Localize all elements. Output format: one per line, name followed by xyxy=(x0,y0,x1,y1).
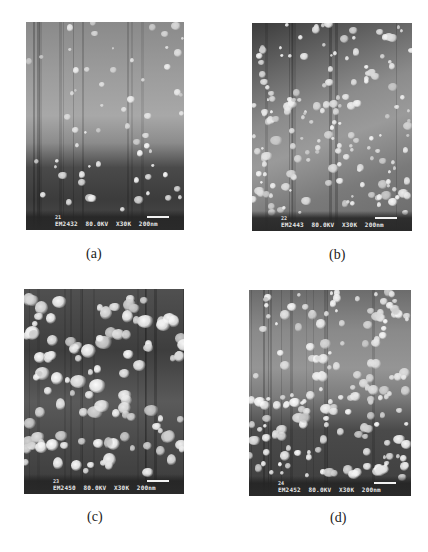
particle xyxy=(53,457,63,470)
particle xyxy=(260,181,263,184)
particle xyxy=(99,82,106,88)
sem-parameters: EM2432 80.0KV X30K 200nm xyxy=(55,221,158,227)
particle xyxy=(295,323,302,332)
particle xyxy=(34,313,44,321)
magnification: X30K xyxy=(108,220,131,227)
sem-parameters: EM2450 80.0KV X30K 200nm xyxy=(53,485,156,491)
particle xyxy=(249,421,255,429)
particle xyxy=(252,134,256,139)
particle xyxy=(301,197,312,206)
particle xyxy=(404,422,409,426)
particle xyxy=(336,178,344,184)
particle xyxy=(286,170,296,178)
particle xyxy=(67,24,73,31)
particle xyxy=(388,170,391,174)
particle xyxy=(144,405,159,416)
particle xyxy=(90,22,96,26)
scan-stripe xyxy=(265,23,268,231)
accelerating-voltage: 80.0KV xyxy=(301,486,332,493)
particle xyxy=(338,395,345,400)
particle xyxy=(123,350,134,360)
particle xyxy=(324,23,334,28)
particle xyxy=(260,45,265,52)
particle xyxy=(328,164,339,173)
particle xyxy=(386,179,391,185)
magnification: X30K xyxy=(331,486,354,493)
particle xyxy=(404,177,410,185)
particle xyxy=(392,187,397,192)
particle xyxy=(353,138,360,143)
particle xyxy=(288,54,292,58)
particle xyxy=(156,446,164,456)
caption-d: (d) xyxy=(330,510,346,526)
particle xyxy=(134,177,139,184)
particle xyxy=(143,344,154,352)
particle xyxy=(406,134,409,137)
particle xyxy=(294,155,302,163)
scan-stripe xyxy=(73,22,74,230)
particle xyxy=(298,406,307,413)
particle xyxy=(384,440,391,446)
particle xyxy=(289,398,300,407)
image-id: EM2450 xyxy=(53,484,76,491)
particle xyxy=(44,387,52,394)
particle xyxy=(177,339,184,351)
sem-micrograph-c: 23EM2450 80.0KV X30K 200nm xyxy=(24,289,184,494)
particle xyxy=(367,146,371,149)
particle xyxy=(161,31,170,37)
particle xyxy=(270,183,276,189)
particle xyxy=(308,310,317,320)
particle xyxy=(328,351,332,355)
particle xyxy=(291,98,297,103)
particle xyxy=(149,24,155,31)
particle xyxy=(389,375,395,380)
particle xyxy=(324,311,329,317)
particle xyxy=(75,143,79,148)
particle xyxy=(269,96,277,103)
particle xyxy=(134,196,144,204)
particle xyxy=(316,319,326,328)
particle xyxy=(374,422,380,428)
particle xyxy=(256,171,263,176)
particle xyxy=(300,53,309,60)
particle xyxy=(345,56,349,61)
particle xyxy=(261,152,272,160)
particle xyxy=(306,391,315,400)
particle xyxy=(276,425,288,434)
particle xyxy=(78,438,86,445)
accelerating-voltage: 80.0KV xyxy=(304,221,335,228)
particle xyxy=(398,189,409,197)
particle xyxy=(125,123,130,130)
particle xyxy=(330,54,333,57)
particle xyxy=(122,310,132,323)
particle xyxy=(371,359,382,369)
particle xyxy=(377,194,382,201)
particle xyxy=(130,58,134,63)
particle xyxy=(149,149,152,153)
particle xyxy=(282,206,286,210)
particle xyxy=(379,158,386,164)
particle xyxy=(144,113,152,119)
particle xyxy=(322,83,327,87)
magnification: X30K xyxy=(334,221,357,228)
particle xyxy=(88,369,93,375)
particle xyxy=(24,436,36,448)
particle xyxy=(391,160,395,165)
particle xyxy=(379,134,382,137)
particle xyxy=(146,191,150,197)
particle xyxy=(384,394,388,400)
particle xyxy=(363,463,371,470)
particle xyxy=(171,22,182,30)
sem-parameters: EM2443 80.0KV X30K 200nm xyxy=(281,222,384,228)
particle xyxy=(290,393,294,398)
particle xyxy=(100,104,105,107)
particle xyxy=(44,355,53,363)
scan-stripe xyxy=(29,289,30,494)
sem-parameters: EM2452 80.0KV X30K 200nm xyxy=(278,487,381,493)
particle xyxy=(285,23,289,26)
particle xyxy=(389,291,395,298)
particle xyxy=(350,385,356,390)
particle xyxy=(60,442,69,449)
particle xyxy=(252,196,257,203)
particle xyxy=(386,302,394,310)
